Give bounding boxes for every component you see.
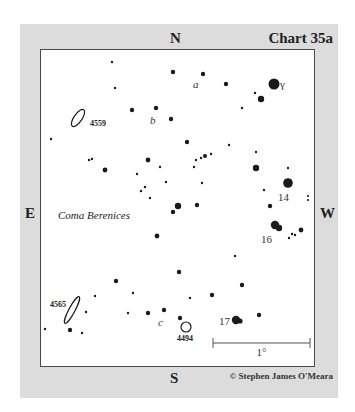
star [94, 295, 96, 297]
label-star-14: 14 [278, 191, 290, 203]
star [144, 186, 146, 188]
star [255, 151, 257, 153]
star [210, 153, 212, 155]
star-gamma [269, 79, 280, 90]
star [111, 61, 113, 63]
star [253, 165, 259, 171]
label-a: a [193, 78, 199, 90]
galaxy-4559-label: 4559 [90, 119, 106, 128]
galaxy-4494-symbol [181, 322, 191, 332]
star [287, 167, 289, 169]
star [291, 233, 293, 235]
star [254, 92, 256, 94]
star [127, 312, 129, 314]
star [68, 328, 72, 332]
star [228, 144, 230, 146]
star [175, 203, 181, 209]
star [237, 318, 242, 323]
stars-layer [44, 61, 309, 334]
star [171, 210, 175, 214]
galaxy-4494-label: 4494 [177, 334, 193, 343]
star [178, 316, 182, 320]
constellation-name: Coma Berenices [58, 209, 130, 221]
star [195, 159, 197, 161]
label-star-16: 16 [261, 233, 273, 245]
star [159, 166, 161, 168]
star [224, 82, 228, 86]
label-gamma: γ [279, 78, 285, 90]
star [154, 106, 158, 110]
star [200, 157, 202, 159]
star [234, 255, 236, 257]
star [177, 270, 181, 274]
star [299, 228, 304, 233]
star [88, 159, 90, 161]
star [114, 279, 118, 283]
star [103, 168, 108, 173]
scale-bar: 1° [213, 338, 310, 358]
star [189, 297, 191, 299]
star [149, 197, 151, 199]
label-b: b [150, 114, 156, 126]
star [136, 173, 138, 175]
star [268, 204, 272, 208]
star [185, 140, 189, 144]
star [307, 195, 309, 197]
star [210, 293, 214, 297]
star [130, 108, 134, 112]
star [241, 107, 243, 109]
star-map: 455945654494 γ141617abc Coma Berenices 1… [0, 0, 355, 412]
star [288, 237, 290, 239]
star [44, 328, 46, 330]
star [258, 96, 264, 102]
star [50, 138, 52, 140]
scale-bar-label: 1° [257, 346, 267, 358]
star [171, 70, 175, 74]
star [165, 181, 167, 183]
star [140, 190, 142, 192]
star [132, 292, 134, 294]
galaxy-4559-symbol [69, 108, 87, 129]
star [263, 189, 265, 191]
star [146, 158, 151, 163]
deep-sky-objects-layer: 455945654494 [50, 108, 193, 343]
star [257, 313, 261, 317]
star [307, 199, 309, 201]
star-star-14 [283, 178, 293, 188]
label-c: c [158, 316, 163, 328]
star [155, 234, 160, 239]
star [203, 154, 207, 158]
star [276, 225, 282, 231]
star [201, 72, 205, 76]
galaxy-4565-label: 4565 [50, 300, 66, 309]
star [201, 182, 203, 184]
star [114, 87, 116, 89]
label-star-17: 17 [219, 315, 231, 327]
star [294, 234, 296, 236]
star [81, 332, 83, 334]
star [91, 158, 93, 160]
star [195, 203, 199, 207]
star [240, 283, 244, 287]
star [169, 117, 173, 121]
star-labels-layer: γ141617abc [150, 78, 290, 328]
star [193, 166, 195, 168]
star [162, 308, 166, 312]
star [146, 311, 150, 315]
star [85, 311, 87, 313]
